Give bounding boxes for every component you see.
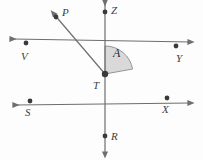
point-label-p: P [62,7,69,18]
point-dot-p [54,15,59,20]
point-dot-y [174,44,179,49]
point-label-v: V [21,51,28,62]
ray-t-p [53,13,105,74]
point-dot-r [103,134,108,139]
point-label-z: Z [111,5,117,16]
angle-label-a: A [113,47,120,59]
point-dot-v [24,41,29,46]
point-label-t: T [93,80,99,91]
point-dot-x [165,96,170,101]
point-label-y: Y [176,53,182,64]
point-label-x: X [162,104,169,115]
point-label-r: R [111,131,118,142]
point-dot-t [102,71,108,77]
geometry-diagram: P Z V Y S X R T A [0,0,203,160]
point-dot-z [103,10,108,15]
point-label-s: S [25,107,31,118]
line-v-y [13,39,191,42]
point-dot-s [28,99,33,104]
geometry-canvas [0,0,203,160]
